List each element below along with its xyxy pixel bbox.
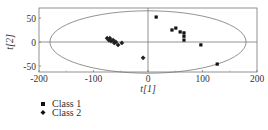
legend-square-icon	[41, 102, 45, 106]
class-1-point	[182, 38, 185, 41]
x-tick-label: 200	[250, 74, 265, 84]
class-1-point	[174, 26, 177, 29]
class-1-point	[182, 35, 185, 38]
y-tick-label: 50	[27, 14, 37, 24]
legend-label-class-2: Class 2	[52, 107, 81, 118]
legend: Class 1 Class 2	[41, 98, 82, 118]
x-tick-label: -200	[30, 74, 48, 84]
x-tick-label: 100	[195, 74, 210, 84]
class-1-point	[199, 43, 202, 46]
plot-svg: -200-1000100200500-50 t[2] t[1] Class 1 …	[0, 0, 268, 130]
class-1-point	[216, 62, 219, 65]
y-axis-label: t[2]	[4, 34, 15, 50]
y-tick-label: -50	[23, 62, 36, 72]
data-points	[105, 15, 219, 65]
reference-lines	[39, 8, 257, 72]
class-1-point	[170, 28, 173, 31]
y-tick-label: 0	[31, 38, 36, 48]
class-1-point	[155, 15, 158, 18]
scatter-chart: -200-1000100200500-50 t[2] t[1] Class 1 …	[0, 0, 268, 130]
legend-diamond-icon	[41, 110, 46, 115]
x-tick-label: -100	[85, 74, 103, 84]
x-axis-label: t[1]	[140, 83, 156, 94]
class-1-point	[179, 30, 182, 33]
class-1-point	[182, 31, 185, 34]
class-2-point	[141, 55, 146, 60]
